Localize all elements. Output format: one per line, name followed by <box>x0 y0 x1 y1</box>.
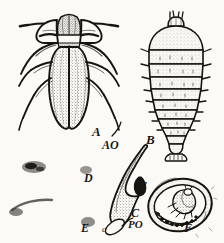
illustration-plate: A AO B D E c T C PO F <box>0 0 224 243</box>
figure-f-pupal-cell <box>143 173 217 237</box>
figure-label-po: PO <box>128 219 143 230</box>
figure-label-b: B <box>146 133 155 146</box>
figure-label-t: T <box>139 180 146 192</box>
figure-label-e: E <box>81 222 89 234</box>
figure-label-ao: AO <box>102 139 119 151</box>
figure-a-adult-beetle <box>19 15 121 136</box>
plate-artwork <box>0 0 224 243</box>
figure-label-f: F <box>184 222 192 234</box>
figure-label-d: D <box>84 172 93 184</box>
figure-label-c-lower: c <box>102 225 106 234</box>
figure-label-a: A <box>92 125 101 138</box>
